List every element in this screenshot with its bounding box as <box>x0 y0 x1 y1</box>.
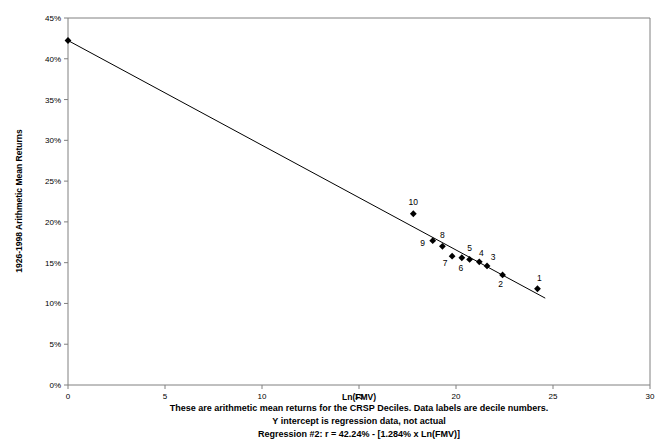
y-tick-label: 10% <box>45 299 61 308</box>
y-tick-label: 30% <box>45 136 61 145</box>
x-tick-label: 0 <box>66 392 71 401</box>
y-tick-label: 20% <box>45 218 61 227</box>
chart-container: 0%5%10%15%20%25%30%35%40%45% 05101520253… <box>0 0 672 443</box>
chart-caption-line: Regression #2: r = 42.24% - [1.284% x Ln… <box>258 429 460 439</box>
scatter-plot: 0%5%10%15%20%25%30%35%40%45% 05101520253… <box>0 0 672 443</box>
x-tick-label: 25 <box>549 392 558 401</box>
y-axis-title: 1926-1998 Arithmetic Mean Returns <box>14 129 24 273</box>
y-tick-label: 45% <box>45 14 61 23</box>
data-point-label: 10 <box>409 197 419 207</box>
data-point-label: 4 <box>479 248 484 258</box>
data-point-label: 5 <box>467 243 472 253</box>
y-tick-label: 15% <box>45 259 61 268</box>
data-point-label: 1 <box>537 273 542 283</box>
data-point-label: 2 <box>498 279 503 289</box>
x-tick-label: 30 <box>646 392 655 401</box>
data-point-label: 7 <box>443 258 448 268</box>
data-point-label: 6 <box>458 263 463 273</box>
data-point-label: 8 <box>440 230 445 240</box>
x-tick-label: 20 <box>452 392 461 401</box>
x-axis-title: Ln(FMV) <box>342 392 376 402</box>
data-point-label: 3 <box>491 252 496 262</box>
data-point-label: 9 <box>420 238 425 248</box>
y-tick-label: 25% <box>45 177 61 186</box>
x-tick-label: 10 <box>258 392 267 401</box>
chart-background <box>0 0 672 443</box>
y-tick-label: 0% <box>49 381 61 390</box>
y-tick-label: 40% <box>45 55 61 64</box>
chart-caption-line: These are arithmetic mean returns for th… <box>170 403 548 413</box>
chart-caption-line: Y intercept is regression data, not actu… <box>272 416 445 426</box>
x-tick-label: 5 <box>163 392 168 401</box>
y-tick-label: 35% <box>45 96 61 105</box>
y-tick-label: 5% <box>49 340 61 349</box>
